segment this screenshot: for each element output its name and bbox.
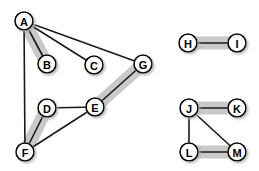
graph-figure: ABCDEFGHIJKLM <box>0 0 259 171</box>
node-circle-m <box>228 143 246 161</box>
graph-node-j: J <box>180 99 198 117</box>
graph-node-h: H <box>179 34 197 52</box>
graph-node-m: M <box>228 143 246 161</box>
graph-node-d: D <box>38 99 56 117</box>
node-circle-b <box>38 55 56 73</box>
graph-node-a: A <box>15 12 33 30</box>
node-circle-e <box>86 98 104 116</box>
edge-a-f <box>24 21 25 152</box>
node-circle-c <box>85 56 103 74</box>
graph-node-b: B <box>38 55 56 73</box>
node-circle-j <box>180 99 198 117</box>
graph-node-l: L <box>180 143 198 161</box>
graph-node-f: F <box>16 143 34 161</box>
node-circle-i <box>228 34 246 52</box>
node-circle-h <box>179 34 197 52</box>
node-circle-k <box>228 99 246 117</box>
node-circle-l <box>180 143 198 161</box>
graph-node-k: K <box>228 99 246 117</box>
node-circle-d <box>38 99 56 117</box>
node-circle-f <box>16 143 34 161</box>
graph-node-e: E <box>86 98 104 116</box>
node-circle-a <box>15 12 33 30</box>
node-layer: ABCDEFGHIJKLM <box>15 12 246 161</box>
graph-node-c: C <box>85 56 103 74</box>
graph-canvas: ABCDEFGHIJKLM <box>0 0 259 171</box>
graph-node-i: I <box>228 34 246 52</box>
graph-node-g: G <box>134 55 152 73</box>
node-circle-g <box>134 55 152 73</box>
